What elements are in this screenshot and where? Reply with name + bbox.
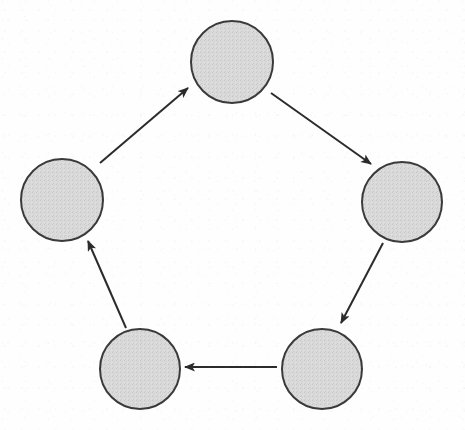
edge-group xyxy=(88,88,383,367)
node-right xyxy=(362,162,442,242)
node-bottom-left xyxy=(100,329,180,409)
edge-right-to-bottom-right xyxy=(341,243,383,323)
diagram-canvas xyxy=(0,0,465,430)
node-top xyxy=(191,21,273,103)
node-bottom-right xyxy=(282,329,362,409)
node-left xyxy=(21,159,103,241)
edge-top-to-right xyxy=(271,93,371,164)
cycle-diagram xyxy=(0,0,465,430)
node-group xyxy=(21,21,442,409)
edge-left-to-top xyxy=(100,88,188,163)
edge-bottom-left-to-left xyxy=(88,241,126,328)
